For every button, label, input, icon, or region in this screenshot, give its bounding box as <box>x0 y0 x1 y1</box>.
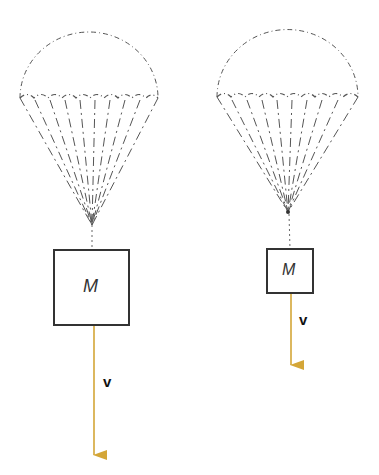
left-parachute-lines <box>20 98 158 225</box>
right-velocity-label: v <box>299 311 307 328</box>
right-mass-label: M <box>282 261 295 279</box>
parachute-diagram <box>0 0 379 475</box>
right-suspension-line <box>289 214 290 249</box>
right-parachute-canopy <box>217 30 358 97</box>
right-parachute-lines <box>217 97 358 212</box>
left-parachute-canopy <box>20 32 158 98</box>
left-velocity-label: v <box>103 373 111 390</box>
left-mass-label: M <box>83 276 98 297</box>
right-line-junction <box>286 210 290 214</box>
